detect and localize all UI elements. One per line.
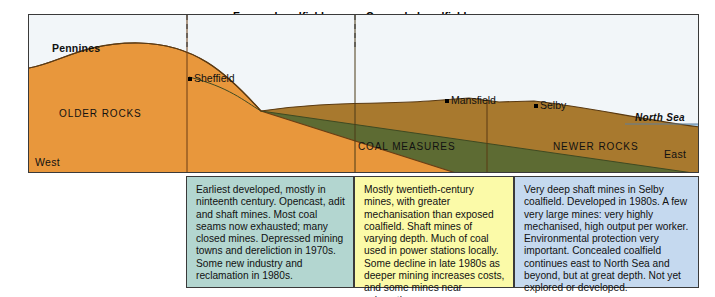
description-box-exposed-coalfield: Earliest developed, mostly in ninteenth …	[186, 176, 354, 288]
city-marker-mansfield: Mansfield	[445, 94, 496, 106]
city-label-mansfield: Mansfield	[451, 94, 496, 106]
east-label: East	[664, 148, 686, 160]
description-boxes: Earliest developed, mostly in ninteenth …	[28, 176, 699, 288]
description-box-selby-coalfield: Very deep shaft mines in Selby coalfield…	[514, 176, 699, 288]
city-marker-sheffield: Sheffield	[188, 72, 235, 84]
city-label-sheffield: Sheffield	[194, 72, 235, 84]
cross-section-panel: Pennines OLDER ROCKS COAL MEASURES NEWER…	[28, 14, 699, 173]
city-dot-icon	[534, 104, 538, 108]
coal-measures-label: COAL MEASURES	[358, 141, 455, 152]
city-marker-selby: Selby	[534, 99, 566, 111]
pennines-label: Pennines	[52, 42, 100, 54]
geological-cross-section-diagram: Exposed coalfield Concealed coalfield	[0, 0, 715, 297]
city-dot-icon	[445, 99, 449, 103]
city-label-selby: Selby	[540, 99, 566, 111]
newer-rocks-label: NEWER ROCKS	[553, 141, 638, 152]
west-label: West	[35, 156, 60, 168]
city-dot-icon	[188, 77, 192, 81]
description-box-concealed-coalfield: Mostly twentieth-century mines, with gre…	[354, 176, 514, 288]
north-sea-label: North Sea	[635, 112, 685, 123]
older-rocks-label: OLDER ROCKS	[59, 108, 142, 119]
